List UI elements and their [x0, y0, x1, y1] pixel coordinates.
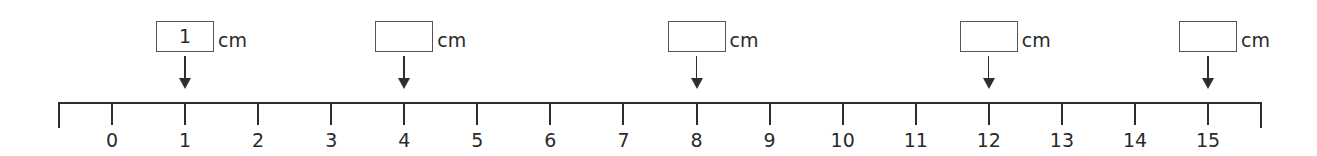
measurement-marker: 1cm — [156, 20, 286, 90]
measurement-marker: cm — [960, 20, 1090, 90]
answer-box[interactable] — [960, 21, 1018, 52]
arrow-head-icon — [691, 78, 703, 89]
measurement-marker: cm — [1179, 20, 1309, 90]
ruler-tick — [842, 102, 844, 125]
ruler-tick — [257, 102, 259, 125]
ruler-tick — [769, 102, 771, 125]
tick-label: 4 — [384, 128, 424, 152]
unit-label: cm — [730, 28, 759, 52]
ruler-diagram: 0123456789101112131415 1cmcmcmcmcm — [0, 0, 1317, 156]
ruler-tick — [1207, 102, 1209, 125]
measurement-marker: cm — [668, 20, 798, 90]
arrow-head-icon — [1202, 78, 1214, 89]
tick-label: 11 — [896, 128, 936, 152]
ruler-tick — [1134, 102, 1136, 125]
answer-box[interactable]: 1 — [156, 21, 214, 52]
ruler-tick — [696, 102, 698, 125]
tick-label: 5 — [457, 128, 497, 152]
ruler-tick — [988, 102, 990, 125]
ruler-tick — [476, 102, 478, 125]
unit-label: cm — [218, 28, 247, 52]
ruler-tick — [622, 102, 624, 125]
ruler-tick — [111, 102, 113, 125]
unit-label: cm — [437, 28, 466, 52]
unit-label: cm — [1022, 28, 1051, 52]
tick-label: 2 — [238, 128, 278, 152]
ruler-right-end — [1260, 102, 1262, 128]
measurement-marker: cm — [375, 20, 505, 90]
ruler-tick — [403, 102, 405, 125]
tick-label: 7 — [603, 128, 643, 152]
arrow-head-icon — [398, 78, 410, 89]
tick-label: 6 — [530, 128, 570, 152]
ruler-baseline — [58, 102, 1262, 104]
tick-label: 8 — [677, 128, 717, 152]
ruler-tick — [1061, 102, 1063, 125]
tick-label: 13 — [1042, 128, 1082, 152]
tick-label: 9 — [750, 128, 790, 152]
arrow-head-icon — [179, 78, 191, 89]
tick-label: 0 — [92, 128, 132, 152]
answer-box[interactable] — [668, 21, 726, 52]
ruler-left-end — [58, 102, 60, 128]
tick-label: 14 — [1115, 128, 1155, 152]
tick-label: 10 — [823, 128, 863, 152]
ruler-tick — [330, 102, 332, 125]
answer-box[interactable] — [1179, 21, 1237, 52]
tick-label: 1 — [165, 128, 205, 152]
answer-box[interactable] — [375, 21, 433, 52]
ruler-tick — [184, 102, 186, 125]
ruler-tick — [549, 102, 551, 125]
tick-label: 15 — [1188, 128, 1228, 152]
ruler-tick — [915, 102, 917, 125]
tick-label: 12 — [969, 128, 1009, 152]
tick-label: 3 — [311, 128, 351, 152]
unit-label: cm — [1241, 28, 1270, 52]
arrow-head-icon — [983, 78, 995, 89]
